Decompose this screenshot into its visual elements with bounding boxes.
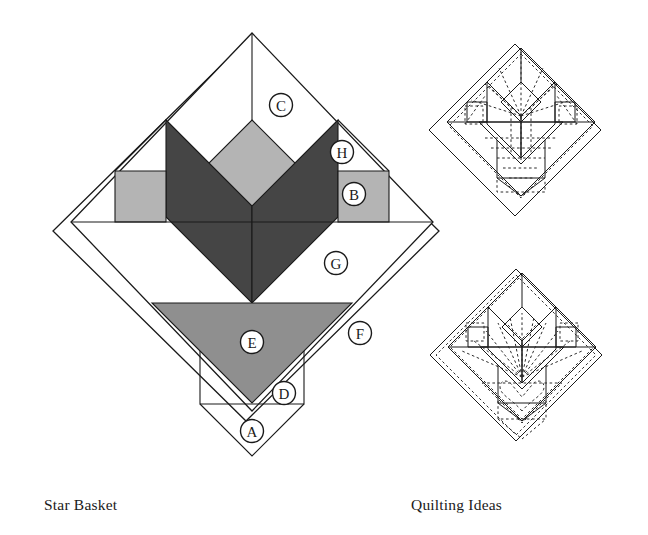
main-block: C H B G F <box>53 33 439 456</box>
piece-label-b: B <box>343 183 366 206</box>
piece-label-f: F <box>349 322 372 345</box>
piece-label-g-text: G <box>331 256 342 272</box>
piece-label-e-text: E <box>247 335 256 351</box>
star-basket-illustration: C H B G F <box>0 0 648 535</box>
quilting-diagram-bottom <box>430 269 602 441</box>
piece-label-d: D <box>273 382 296 405</box>
piece-label-b-text: B <box>349 187 359 203</box>
piece-label-g: G <box>325 252 348 275</box>
caption-quilting-ideas: Quilting Ideas <box>411 496 502 514</box>
diagram-canvas: C H B G F <box>0 0 648 535</box>
piece-label-h-text: H <box>337 145 348 161</box>
quilting-diagram-top <box>429 44 601 216</box>
piece-label-e: E <box>241 331 264 354</box>
caption-star-basket: Star Basket <box>44 496 117 514</box>
piece-label-a-text: A <box>247 424 258 440</box>
piece-label-f-text: F <box>356 326 364 342</box>
piece-label-a: A <box>241 420 264 443</box>
piece-label-h: H <box>331 141 354 164</box>
piece-square-left <box>115 171 166 222</box>
piece-label-c: C <box>270 94 293 117</box>
piece-label-c-text: C <box>276 98 286 114</box>
piece-label-d-text: D <box>279 386 290 402</box>
